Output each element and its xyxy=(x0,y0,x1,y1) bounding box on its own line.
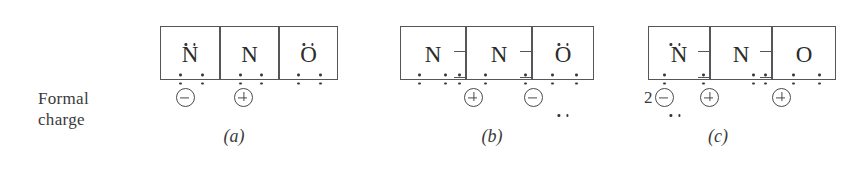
circled-minus-icon xyxy=(176,88,195,107)
electron-dot xyxy=(418,73,421,76)
electron-dot xyxy=(752,73,755,76)
electron-dot xyxy=(566,114,569,117)
electron-dot xyxy=(524,73,527,76)
electron-dot xyxy=(524,82,527,85)
circled-minus-icon xyxy=(524,88,543,107)
lone-pair-o1-right xyxy=(319,73,351,84)
structure-c-charges: 2 xyxy=(648,88,844,114)
electron-dot xyxy=(458,82,461,85)
lone-pair-n2-left xyxy=(239,73,242,84)
atom-box-o1: O xyxy=(532,26,594,80)
lone-pair-n1-left xyxy=(418,73,421,84)
structure-a-boxes: N N O xyxy=(160,26,340,80)
electron-dot xyxy=(669,114,672,117)
electron-dot xyxy=(319,73,322,76)
electron-dot xyxy=(663,82,666,85)
formal-charge-b-1 xyxy=(462,88,483,107)
electron-dot xyxy=(297,82,300,85)
circled-plus-icon xyxy=(234,88,253,107)
electron-dot xyxy=(297,73,300,76)
electron-dot xyxy=(702,73,705,76)
circled-minus-icon xyxy=(655,88,674,107)
lewis-structure-figure: Formal charge N N O xyxy=(0,0,844,174)
atom-symbol-n2: N xyxy=(733,43,750,66)
electron-dot xyxy=(575,82,578,85)
atom-symbol-n1: N xyxy=(182,43,199,66)
electron-dot xyxy=(201,82,204,85)
formal-charge-a-1 xyxy=(174,88,195,107)
atom-box-n2: N xyxy=(220,26,279,80)
lone-pair-o1-left xyxy=(792,73,795,84)
electron-dot xyxy=(311,43,314,46)
structure-b-boxes: N N O xyxy=(400,26,594,80)
structure-a: N N O xyxy=(160,0,360,174)
formal-charge-label-line2: charge xyxy=(38,109,158,130)
electron-dot xyxy=(484,82,487,85)
bonding-pair-n2-o xyxy=(764,73,767,84)
circled-plus-icon xyxy=(464,88,483,107)
lone-pair-o1-left xyxy=(297,73,300,84)
atom-symbol-n2: N xyxy=(241,43,258,66)
lone-pair-n1-top xyxy=(669,43,680,46)
electron-dot xyxy=(566,43,569,46)
atom-symbol-n2: N xyxy=(491,43,508,66)
electron-dot xyxy=(458,73,461,76)
structure-caption-b: (b) xyxy=(462,126,522,147)
lone-pair-o1-right xyxy=(818,73,844,84)
bonding-pair-n1-n2 xyxy=(458,73,461,84)
electron-dot xyxy=(678,114,681,117)
charge-multiplier: 2 xyxy=(644,89,653,107)
formal-charge-label: Formal charge xyxy=(38,88,158,130)
electron-dot xyxy=(484,73,487,76)
electron-dot xyxy=(319,82,322,85)
atom-symbol-o1: O xyxy=(796,43,813,66)
electron-dot xyxy=(239,82,242,85)
structure-c-boxes: N N O xyxy=(648,26,836,80)
atom-symbol-o1: O xyxy=(300,43,317,66)
circled-plus-icon xyxy=(700,88,719,107)
bonding-pair-n1-n2 xyxy=(702,73,705,84)
structure-caption-a: (a) xyxy=(204,126,264,147)
electron-dot xyxy=(792,73,795,76)
electron-dot xyxy=(557,114,560,117)
atom-symbol-o1: O xyxy=(555,43,572,66)
circled-plus-icon xyxy=(772,88,791,107)
electron-dot xyxy=(764,82,767,85)
electron-dot xyxy=(575,73,578,76)
formal-charge-c-3 xyxy=(770,88,791,107)
electron-dot xyxy=(184,43,187,46)
electron-dot xyxy=(193,43,196,46)
lone-pair-o1-top xyxy=(557,43,568,46)
structure-b-charges xyxy=(400,88,610,114)
electron-dot xyxy=(302,43,305,46)
electron-dot xyxy=(702,82,705,85)
structure-caption-c: (c) xyxy=(688,126,748,147)
lone-pair-o1-left xyxy=(551,73,554,84)
formal-charge-b-2 xyxy=(522,88,543,107)
formal-charge-label-line1: Formal xyxy=(38,88,158,109)
lone-pair-n1-left xyxy=(179,73,182,84)
lone-pair-o1-right xyxy=(575,73,605,84)
electron-dot xyxy=(818,73,821,76)
electron-dot xyxy=(678,43,681,46)
electron-dot xyxy=(418,82,421,85)
atom-symbol-n1: N xyxy=(671,43,688,66)
structure-b: N N O xyxy=(400,0,610,174)
electron-dot xyxy=(551,73,554,76)
structure-a-charges xyxy=(160,88,360,114)
electron-dot xyxy=(818,82,821,85)
lone-pair-n1-top xyxy=(184,43,195,46)
electron-dot xyxy=(764,73,767,76)
electron-dot xyxy=(201,73,204,76)
electron-dot xyxy=(239,73,242,76)
electron-dot xyxy=(669,43,672,46)
formal-charge-c-1: 2 xyxy=(644,88,674,107)
lone-pair-o1-top xyxy=(302,43,313,46)
electron-dot xyxy=(557,43,560,46)
atom-symbol-n1: N xyxy=(425,43,442,66)
bonding-pair-n2-o xyxy=(524,73,527,84)
electron-dot xyxy=(752,82,755,85)
electron-dot xyxy=(260,82,263,85)
formal-charge-c-2 xyxy=(698,88,719,107)
lone-pair-n2-left xyxy=(484,73,487,84)
